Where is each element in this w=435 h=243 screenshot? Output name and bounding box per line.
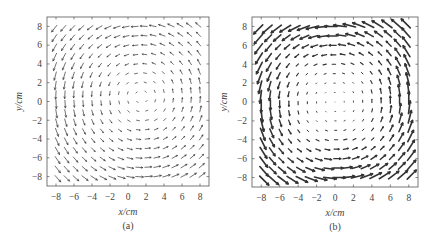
panel-label: (a) [122,220,133,232]
y-tick-label: −8 [32,172,42,182]
y-tick-label: 2 [37,78,42,88]
x-tick-label: 0 [126,192,131,202]
x-tick-label: 6 [180,192,185,202]
y-axis-label: y/cm [218,93,229,113]
x-tick-label: 6 [388,193,393,203]
y-tick-label: 2 [242,78,247,88]
quiver-arrows [254,19,417,185]
quiver-arrows [52,23,205,182]
x-tick-label: −4 [87,192,97,202]
y-tick-label: −2 [32,116,42,126]
y-axis-label: y/cm [13,92,24,112]
y-tick-label: 6 [242,41,247,51]
panel-label: (b) [329,221,341,232]
y-tick-label: 6 [37,40,42,50]
x-tick-label: −4 [293,193,303,203]
x-tick-label: 4 [162,192,167,202]
figure-caption [0,232,435,243]
y-tick-label: −8 [237,173,247,183]
panel-a: −8−6−4−202468−8−6−4−202468x/cmy/cm(a) [0,0,218,232]
y-tick-label: −4 [237,135,247,145]
x-tick-label: 2 [144,192,149,202]
x-tick-label: 8 [406,193,411,203]
x-tick-label: −8 [51,192,61,202]
y-tick-label: 8 [37,22,42,32]
y-tick-label: −2 [237,116,247,126]
x-tick-label: 8 [198,192,203,202]
y-tick-label: 0 [242,97,247,107]
y-tick-label: −6 [237,154,247,164]
y-tick-label: 0 [37,97,42,107]
x-tick-label: −2 [105,192,115,202]
x-tick-label: −6 [275,193,285,203]
x-tick-label: 2 [351,193,356,203]
x-axis-label: x/cm [118,206,138,217]
y-tick-label: 4 [242,60,247,70]
x-tick-label: −2 [312,193,322,203]
x-tick-label: −6 [69,192,79,202]
quiver-plot-a: −8−6−4−202468−8−6−4−202468x/cmy/cm(a) [0,0,218,232]
y-tick-label: 8 [242,22,247,32]
quiver-plot-b: −8−6−4−202468−8−6−4−202468x/cmy/cm(b) [218,0,435,232]
x-tick-label: −8 [256,193,266,203]
panel-b: −8−6−4−202468−8−6−4−202468x/cmy/cm(b) [218,0,435,232]
x-tick-label: 0 [333,193,338,203]
x-axis-label: x/cm [325,207,345,218]
y-tick-label: −6 [32,153,42,163]
y-tick-label: −4 [32,134,42,144]
y-tick-label: 4 [37,59,42,69]
x-tick-label: 4 [370,193,375,203]
